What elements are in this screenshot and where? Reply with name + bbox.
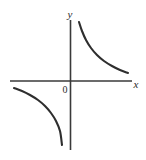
graph-canvas: y x 0 (0, 0, 146, 160)
x-axis-label: x (133, 78, 139, 90)
y-axis-label: y (67, 8, 73, 20)
figure-background (0, 0, 146, 160)
origin-label: 0 (63, 84, 68, 95)
hyperbola-figure: y x 0 (0, 0, 146, 160)
